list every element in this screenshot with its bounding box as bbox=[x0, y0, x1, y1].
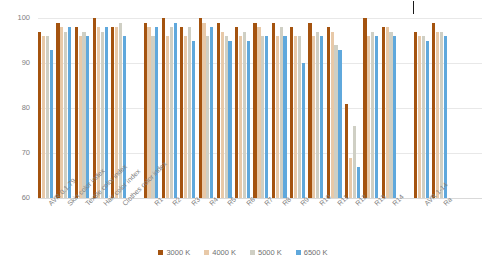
cri-index-bar-chart: CRI index 60708090100 AVR 0.1.79Skin col… bbox=[0, 0, 486, 269]
bar bbox=[170, 27, 173, 198]
bar-cluster bbox=[253, 18, 268, 198]
bar bbox=[283, 36, 286, 198]
bar-cluster bbox=[327, 18, 342, 198]
legend-label: 4000 K bbox=[212, 248, 236, 257]
bar bbox=[440, 32, 443, 199]
bar bbox=[75, 27, 78, 198]
bar bbox=[38, 32, 41, 199]
bar bbox=[247, 41, 250, 199]
bar-cluster bbox=[363, 18, 378, 198]
bar bbox=[349, 158, 352, 199]
bar-cluster bbox=[162, 18, 177, 198]
bar bbox=[210, 27, 213, 198]
bar bbox=[327, 27, 330, 198]
legend-swatch bbox=[158, 250, 163, 255]
bar-cluster bbox=[217, 18, 232, 198]
legend-label: 5000 K bbox=[258, 248, 282, 257]
bar bbox=[79, 36, 82, 198]
bar bbox=[331, 32, 334, 199]
bar bbox=[239, 36, 242, 198]
bar-cluster bbox=[199, 18, 214, 198]
bar bbox=[192, 41, 195, 199]
bar-cluster bbox=[75, 18, 90, 198]
bar bbox=[436, 32, 439, 199]
bar bbox=[206, 36, 209, 198]
bar-group bbox=[414, 18, 451, 198]
bar-cluster bbox=[56, 18, 71, 198]
bar bbox=[228, 41, 231, 199]
bar bbox=[261, 36, 264, 198]
bar bbox=[68, 27, 71, 198]
bar-cluster bbox=[38, 18, 53, 198]
legend-item[interactable]: 5000 K bbox=[250, 248, 282, 257]
bar bbox=[50, 50, 53, 199]
bar bbox=[375, 36, 378, 198]
bar bbox=[444, 36, 447, 198]
legend-item[interactable]: 6500 K bbox=[296, 248, 328, 257]
legend-swatch bbox=[250, 250, 255, 255]
bar bbox=[334, 45, 337, 198]
legend-item[interactable]: 3000 K bbox=[158, 248, 190, 257]
bar bbox=[265, 36, 268, 198]
bar bbox=[320, 36, 323, 198]
bar bbox=[312, 36, 315, 198]
bar bbox=[389, 32, 392, 199]
bar-cluster bbox=[290, 18, 305, 198]
chart-legend: 3000 K4000 K5000 K6500 K bbox=[0, 248, 486, 257]
bar bbox=[338, 50, 341, 199]
bar bbox=[294, 36, 297, 198]
bar-cluster bbox=[382, 18, 397, 198]
bar bbox=[257, 27, 260, 198]
bar bbox=[363, 18, 366, 198]
bar bbox=[290, 27, 293, 198]
bar bbox=[253, 23, 256, 199]
bar bbox=[345, 104, 348, 199]
bar bbox=[298, 36, 301, 198]
bar bbox=[184, 36, 187, 198]
bar-cluster bbox=[345, 18, 360, 198]
bar bbox=[56, 23, 59, 199]
bar bbox=[235, 27, 238, 198]
y-tick-label: 70 bbox=[0, 149, 30, 157]
bar bbox=[382, 27, 385, 198]
bar bbox=[46, 36, 49, 198]
y-axis: CRI index 60708090100 bbox=[0, 18, 36, 198]
bar bbox=[393, 36, 396, 198]
bar bbox=[422, 36, 425, 198]
bar bbox=[82, 32, 85, 199]
bar bbox=[308, 23, 311, 199]
legend-item[interactable]: 4000 K bbox=[204, 248, 236, 257]
bar bbox=[174, 23, 177, 199]
bar bbox=[367, 36, 370, 198]
bar bbox=[432, 23, 435, 199]
bar bbox=[64, 32, 67, 199]
bar bbox=[357, 167, 360, 199]
bar bbox=[243, 32, 246, 199]
bar-cluster bbox=[414, 18, 429, 198]
bar-cluster bbox=[432, 18, 447, 198]
bar bbox=[302, 63, 305, 198]
bar bbox=[60, 27, 63, 198]
bar bbox=[272, 23, 275, 199]
legend-label: 3000 K bbox=[166, 248, 190, 257]
bar-group bbox=[144, 18, 400, 198]
y-tick-label: 80 bbox=[0, 104, 30, 112]
bar bbox=[199, 18, 202, 198]
bar bbox=[386, 27, 389, 198]
bar bbox=[353, 126, 356, 198]
bar bbox=[371, 32, 374, 199]
legend-swatch bbox=[204, 250, 209, 255]
bar bbox=[86, 36, 89, 198]
y-tick-label: 100 bbox=[0, 14, 30, 22]
bar bbox=[418, 36, 421, 198]
bar bbox=[280, 27, 283, 198]
bar bbox=[42, 36, 45, 198]
bar-cluster bbox=[235, 18, 250, 198]
bar-cluster bbox=[308, 18, 323, 198]
bar bbox=[225, 36, 228, 198]
bar bbox=[316, 32, 319, 199]
bar bbox=[414, 32, 417, 199]
legend-swatch bbox=[296, 250, 301, 255]
bar bbox=[426, 41, 429, 199]
legend-label: 6500 K bbox=[304, 248, 328, 257]
